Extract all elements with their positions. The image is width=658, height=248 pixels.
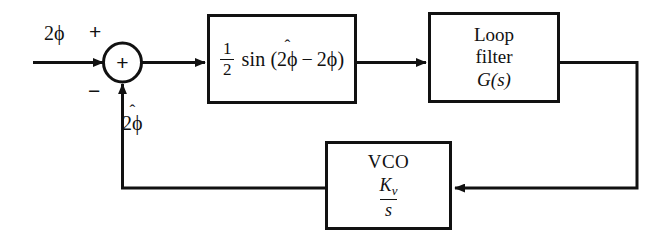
summing-junction-plus-sign: +: [89, 20, 101, 44]
input-signal-label: 2ϕ: [44, 22, 65, 45]
summing-junction-symbol: +: [105, 45, 140, 80]
vco-gain-symbol: K: [380, 175, 392, 195]
hat-accent-icon: ˆ: [129, 102, 135, 119]
fraction-denominator: 2: [220, 59, 235, 78]
block-phase-detector: 1 2 sin ( ˆ 2ϕ − 2ϕ ): [207, 14, 357, 104]
close-paren: ): [337, 48, 344, 71]
vco-denominator: s: [380, 199, 397, 220]
feedback-signal-label: ˆ 2ϕ: [122, 112, 143, 135]
vco-title: VCO: [368, 151, 410, 173]
vco-gain-subscript: v: [392, 183, 398, 198]
vco-gain: Kv: [375, 176, 403, 198]
block-loop-filter: Loop filter G(s): [428, 12, 560, 103]
sine-argument-second: 2ϕ: [317, 48, 338, 71]
hat-accent-icon: ˆ: [284, 37, 290, 54]
loop-filter-line-1: Loop: [474, 24, 514, 46]
block-vco: VCO Kv s: [325, 141, 452, 230]
fraction-numerator: 1: [220, 40, 235, 58]
loop-filter-line-2: filter: [476, 46, 513, 68]
feedback-signal-hatted: ˆ 2ϕ: [122, 112, 143, 135]
one-half-fraction: 1 2: [220, 40, 235, 78]
minus-operator: −: [302, 48, 313, 71]
loop-filter-transfer-function: G(s): [477, 69, 511, 91]
sine-function-name: sin: [241, 48, 265, 71]
open-paren: (: [270, 48, 277, 71]
sine-argument-first: ˆ 2ϕ: [277, 48, 298, 71]
summing-junction-minus-sign: −: [88, 79, 100, 103]
mixer-expression: 1 2 sin ( ˆ 2ϕ − 2ϕ ): [220, 40, 344, 78]
vco-transfer-function: Kv s: [375, 176, 403, 219]
block-diagram: + 2ϕ + − ˆ 2ϕ 1 2 sin ( ˆ 2ϕ − 2ϕ ) Lo: [0, 0, 658, 248]
